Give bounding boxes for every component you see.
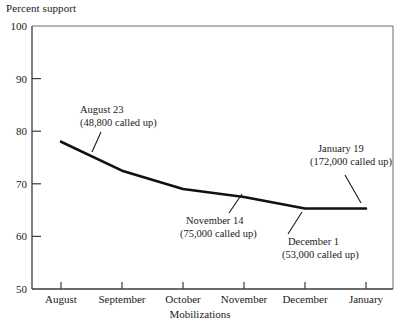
leader-line-january	[345, 175, 361, 203]
annotation-august-line2: (48,800 called up)	[80, 117, 157, 129]
annotation-august: August 23 (48,800 called up)	[80, 104, 157, 129]
y-tick-label-100: 100	[11, 20, 28, 32]
chart-canvas: 100 90 80 70 60 50 August September Octo…	[0, 0, 400, 326]
annotation-january: January 19 (172,000 called up)	[310, 143, 392, 168]
annotation-november: November 14 (75,000 called up)	[180, 215, 257, 240]
x-axis-caption: Mobilizations	[0, 308, 400, 320]
annotation-november-line1: November 14	[186, 215, 244, 226]
y-axis-ticks	[32, 79, 41, 237]
y-axis-tick-labels: 100 90 80 70 60 50	[11, 20, 28, 295]
annotation-november-line2: (75,000 called up)	[180, 228, 257, 240]
y-tick-label-80: 80	[16, 125, 28, 137]
x-tick-label-december: December	[282, 293, 328, 305]
leader-line-august	[92, 132, 101, 152]
x-axis-tick-labels: August September October November Decemb…	[45, 293, 383, 305]
x-tick-label-august: August	[45, 293, 77, 305]
chart-figure: Percent support 100 90 80 70 60 50	[0, 0, 400, 326]
leader-line-december	[288, 212, 302, 234]
y-tick-label-50: 50	[16, 283, 28, 295]
y-tick-label-90: 90	[16, 73, 28, 85]
x-tick-label-october: October	[165, 293, 201, 305]
annotation-august-line1: August 23	[80, 104, 123, 115]
annotation-december-line1: December 1	[288, 236, 339, 247]
y-tick-label-60: 60	[16, 230, 28, 242]
annotation-january-line1: January 19	[318, 143, 364, 154]
annotation-january-line2: (172,000 called up)	[310, 156, 392, 168]
y-tick-label-70: 70	[16, 178, 28, 190]
annotation-december-line2: (53,000 called up)	[282, 249, 359, 261]
x-tick-label-november: November	[221, 293, 268, 305]
x-axis-ticks	[61, 282, 366, 289]
x-tick-label-january: January	[349, 293, 384, 305]
annotation-december: December 1 (53,000 called up)	[282, 236, 359, 261]
x-tick-label-september: September	[98, 293, 145, 305]
